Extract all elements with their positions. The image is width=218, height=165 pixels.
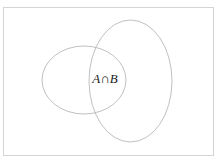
intersection-label: A∩B [91,71,117,86]
venn-diagram-canvas: A∩B [0,0,218,165]
intersection-operator-icon: ∩ [100,71,109,86]
set-b-symbol: B [110,71,118,86]
set-a-symbol: A [91,71,100,86]
venn-diagram-figure: A∩B [0,0,218,165]
